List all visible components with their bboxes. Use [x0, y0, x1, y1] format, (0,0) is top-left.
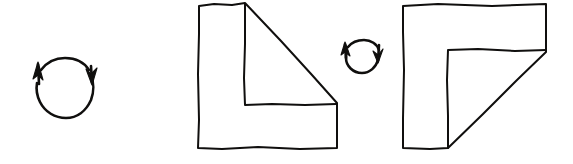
- shape-before: [191, 0, 344, 155]
- rotation-diagram-canvas: Hand-drawn shape rotation sequence: [0, 0, 573, 164]
- rotation-arrow-right-hit: [338, 33, 386, 81]
- shape-after-hit: [396, 0, 553, 155]
- rotation-arrow-left: [29, 52, 101, 124]
- sketch-surface: [0, 0, 573, 164]
- shape-before-hit: [191, 0, 344, 155]
- rotation-arrow-right: [338, 33, 386, 81]
- shape-after: [396, 0, 553, 155]
- rotation-arrow-left-hit: [29, 52, 101, 124]
